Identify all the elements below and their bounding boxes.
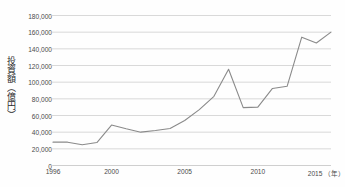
plot-area [0, 0, 345, 187]
line-chart: 投資額（億円） 020,00040,00060,00080,000100,000… [0, 0, 345, 187]
